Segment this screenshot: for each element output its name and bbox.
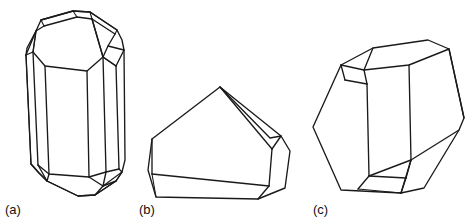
panel-label-b: (b) bbox=[139, 203, 155, 216]
crystal-a bbox=[26, 11, 125, 196]
panel-label-a: (a) bbox=[5, 203, 21, 216]
crystal-a-outline bbox=[26, 11, 125, 196]
crystal-c-outline bbox=[313, 40, 464, 193]
crystal-c bbox=[313, 40, 464, 193]
crystal-figure: (a) (b) (c) bbox=[0, 0, 473, 223]
crystal-drawings-svg bbox=[0, 0, 473, 223]
panel-label-c: (c) bbox=[313, 203, 328, 216]
crystal-b bbox=[148, 87, 290, 199]
